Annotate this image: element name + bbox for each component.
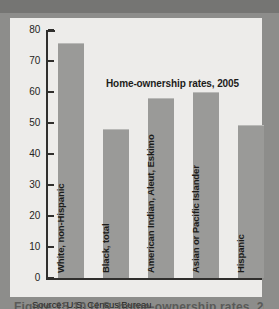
y-tick-0: [48, 277, 54, 279]
bar-label: Asian or Pacific Islander: [190, 165, 201, 273]
y-tick-label-0: 0: [14, 273, 40, 283]
y-tick-label-40: 40: [14, 149, 40, 159]
bar: American Indian, Aleut, Eskimo: [148, 98, 174, 278]
y-tick-80: [48, 29, 54, 31]
y-tick-label-60: 60: [14, 87, 40, 97]
x-axis-line: [46, 278, 262, 280]
y-tick-label-30: 30: [14, 180, 40, 190]
bar-label: Black, total: [100, 224, 111, 273]
figure-caption: Figure 15.10 U.S. home-ownership rates, …: [14, 300, 264, 309]
bar: White, non-Hispanic: [58, 43, 84, 278]
y-tick-label-20: 20: [14, 211, 40, 221]
bar-label: White, non-Hispanic: [55, 184, 66, 273]
scan-top-band: [0, 0, 279, 13]
scan-right-margin: [262, 13, 279, 309]
y-tick-10: [48, 246, 54, 248]
y-tick-label-10: 10: [14, 242, 40, 252]
y-axis-labels: 80706050403020100: [12, 30, 40, 280]
bar-label: Hispanic: [235, 234, 246, 273]
y-tick-20: [48, 215, 54, 217]
y-tick-label-80: 80: [14, 25, 40, 35]
figure-page: 80706050403020100 White, non-HispanicBla…: [0, 0, 279, 309]
bar: Black, total: [103, 129, 129, 278]
plot-area: White, non-HispanicBlack, totalAmerican …: [46, 30, 262, 278]
bar: Asian or Pacific Islander: [193, 92, 219, 278]
y-tick-30: [48, 184, 54, 186]
y-tick-50: [48, 122, 54, 124]
chart-title: Home-ownership rates, 2005: [106, 78, 239, 89]
y-tick-label-70: 70: [14, 56, 40, 66]
y-tick-label-50: 50: [14, 118, 40, 128]
y-tick-60: [48, 91, 54, 93]
bar-label: American Indian, Aleut, Eskimo: [145, 134, 156, 273]
y-tick-40: [48, 153, 54, 155]
bar: Hispanic: [238, 125, 264, 278]
chart-panel: 80706050403020100 White, non-HispanicBla…: [10, 18, 262, 297]
y-tick-70: [48, 60, 54, 62]
